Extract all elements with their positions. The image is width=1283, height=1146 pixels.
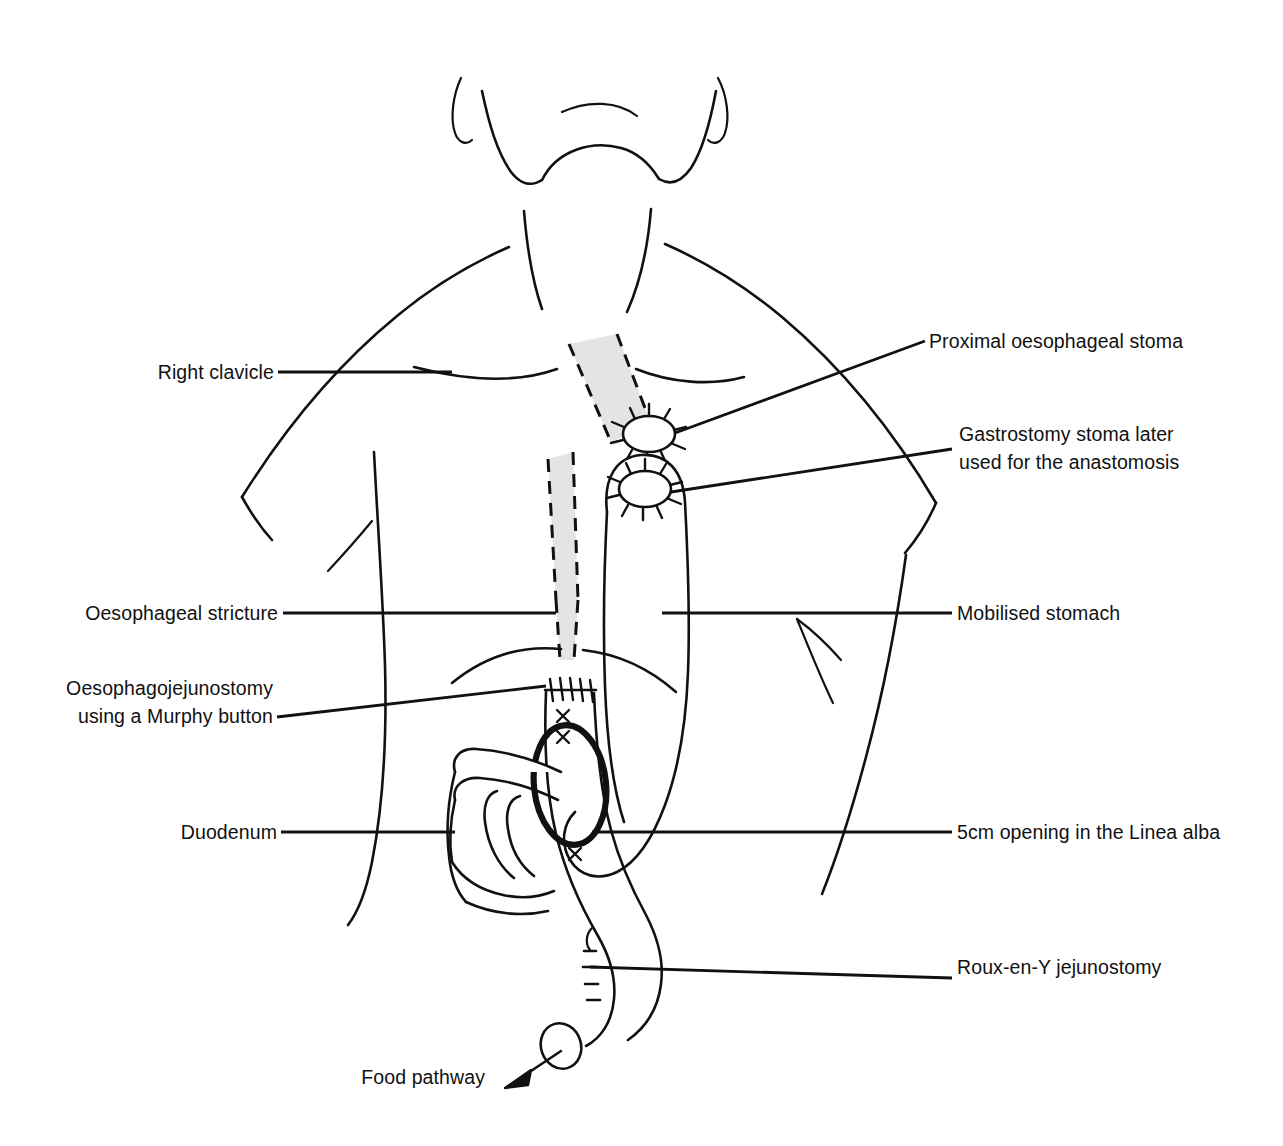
- label-right-clavicle: Right clavicle: [44, 360, 274, 385]
- distal-oesophagus-shaded-band: [548, 452, 578, 660]
- food-pathway-arrow-icon: [505, 1051, 561, 1088]
- leader-roux-en-y: [590, 967, 952, 978]
- bowel-terminal-opening: [535, 1018, 587, 1074]
- label-oesophagojejunostomy-line2: using a Murphy button: [28, 704, 273, 729]
- leader-oesophagojejunostomy: [277, 686, 546, 717]
- label-gastrostomy-stoma-line2: used for the anastomosis: [959, 450, 1279, 475]
- label-food-pathway: Food pathway: [250, 1065, 485, 1090]
- label-mobilised-stomach: Mobilised stomach: [957, 601, 1277, 626]
- duodenum-and-bowel-loops: [448, 749, 561, 914]
- label-linea-alba-opening: 5cm opening in the Linea alba: [957, 820, 1283, 845]
- mobilised-stomach: [564, 455, 689, 877]
- label-roux-en-y-jejunostomy: Roux-en-Y jejunostomy: [957, 955, 1277, 980]
- label-gastrostomy-stoma-line1: Gastrostomy stoma later: [959, 422, 1279, 447]
- label-proximal-oesophageal-stoma: Proximal oesophageal stoma: [929, 329, 1249, 354]
- leader-proximal-oesophageal-stoma: [675, 341, 925, 433]
- leader-gastrostomy-stoma: [671, 449, 952, 492]
- label-oesophagojejunostomy-line1: Oesophagojejunostomy: [28, 676, 273, 701]
- figure-canvas: Right clavicle Proximal oesophageal stom…: [0, 0, 1283, 1146]
- label-oesophageal-stricture: Oesophageal stricture: [28, 601, 278, 626]
- head-and-neck-outline: [453, 78, 728, 312]
- label-duodenum: Duodenum: [48, 820, 277, 845]
